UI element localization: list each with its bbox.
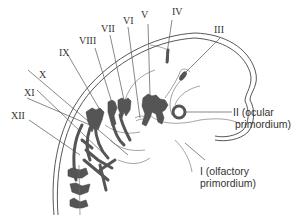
- label-II-line1: II (ocular: [233, 106, 274, 118]
- label-II-line2: primordium): [235, 118, 291, 130]
- nerve-II-ring: [173, 106, 185, 118]
- label-XI: XI: [24, 87, 35, 98]
- label-VII: VII: [101, 23, 115, 34]
- label-I-line1: I (olfactory: [200, 165, 250, 177]
- label-VIII: VIII: [79, 35, 96, 46]
- label-X: X: [39, 69, 47, 80]
- label-XII: XII: [11, 110, 25, 121]
- nerve-VII-VIII: [108, 98, 131, 145]
- label-I-line2: primordium): [200, 177, 256, 189]
- label-IX: IX: [59, 47, 70, 58]
- cranial-nerves-diagram: IV III V VI VII VIII IX X XI XII II (ocu…: [0, 0, 303, 218]
- label-IV: IV: [172, 6, 183, 17]
- label-V: V: [141, 9, 149, 20]
- label-III: III: [214, 24, 224, 35]
- spinal-ganglia: [68, 165, 90, 215]
- label-VI: VI: [123, 15, 134, 26]
- brain-vesicles: [105, 69, 240, 172]
- nerve-V: [142, 94, 168, 126]
